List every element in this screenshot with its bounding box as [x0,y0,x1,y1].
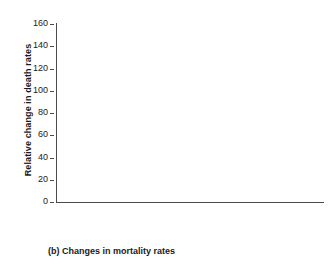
y-tick-mark [50,91,54,92]
x-axis-line [56,202,324,203]
y-tick-mark [50,24,54,25]
y-tick-label: 20 [38,174,48,184]
y-tick-mark [50,69,54,70]
y-tick-mark [50,202,54,203]
figure-caption: (b) Changes in mortality rates [48,246,175,256]
y-tick-mark [50,46,54,47]
y-tick-label: 40 [38,152,48,162]
y-axis-title: Relative change in death rates [23,20,33,200]
y-tick-mark [50,135,54,136]
y-tick-mark [50,113,54,114]
y-tick-label: 140 [33,40,48,50]
y-tick-mark [50,158,54,159]
plot-area [57,24,323,202]
y-tick-label: 80 [38,107,48,117]
y-tick-label: 0 [43,196,48,206]
y-tick-label: 120 [33,63,48,73]
y-tick-mark [50,180,54,181]
y-tick-label: 100 [33,85,48,95]
y-tick-label: 160 [33,18,48,28]
figure-changes-in-mortality-rates: Relative change in death rates 020406080… [0,0,331,264]
y-tick-label: 60 [38,129,48,139]
